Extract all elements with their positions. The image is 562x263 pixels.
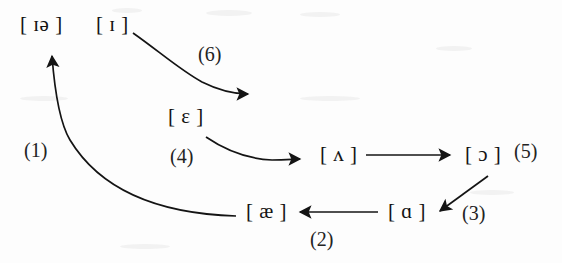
- vowel-node-ae[interactable]: [ æ ]: [246, 201, 287, 222]
- arrow-label-3: (3): [462, 203, 485, 223]
- arrow-4-path: [206, 137, 300, 160]
- vowel-node-ia[interactable]: [ ɪə ]: [20, 14, 63, 35]
- vowel-node-e[interactable]: [ ɛ ]: [168, 106, 204, 127]
- vowel-node-a[interactable]: [ ɑ ]: [388, 201, 426, 222]
- vowel-node-v[interactable]: [ ʌ ]: [320, 144, 358, 165]
- arrow-label-2: (2): [310, 229, 333, 249]
- vowel-shift-diagram: [ ɪə ] [ ɪ ] [ ɛ ] [ ʌ ] [ ɔ ] [ æ ] [ ɑ…: [0, 0, 562, 263]
- arrow-label-6: (6): [198, 44, 221, 64]
- arrow-label-4: (4): [170, 146, 193, 166]
- arrow-label-1: (1): [24, 140, 47, 160]
- vowel-node-i[interactable]: [ ɪ ]: [96, 14, 129, 35]
- arrow-label-5: (5): [514, 141, 537, 161]
- arrow-1-path: [52, 56, 236, 216]
- vowel-node-o[interactable]: [ ɔ ]: [465, 144, 501, 165]
- arrow-6-path: [133, 33, 248, 94]
